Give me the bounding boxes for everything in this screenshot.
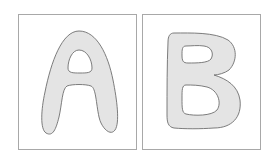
letter-a-glyph: A bbox=[42, 31, 118, 134]
letter-b-glyph: B bbox=[167, 33, 240, 129]
letter-glyphs: A B bbox=[0, 0, 272, 163]
